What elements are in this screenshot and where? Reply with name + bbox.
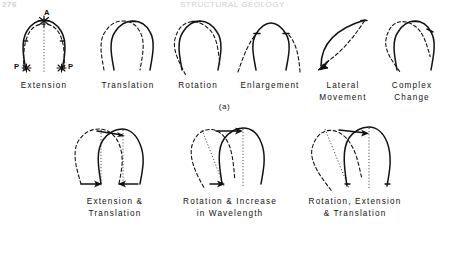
diagram-label-extension: Extension: [2, 80, 86, 91]
diagram-label-rot-wave-line2: in Wavelength: [165, 208, 295, 220]
diagram-label-ext-trans-line1: Extension &: [50, 196, 180, 208]
diagram-enlargement: Enlargement: [226, 8, 314, 91]
figure-panel-a: A P P Extension Translation: [0, 6, 449, 110]
panel-a-caption: (a): [0, 102, 449, 111]
diagram-label-rot-ext-trans-line1: Rotation, Extension: [285, 196, 425, 208]
diagram-label-rot-wave-line1: Rotation & Increase: [165, 196, 295, 208]
limb-label-p-right: P: [68, 62, 73, 71]
diagram-label-rot-ext-trans-line2: & Translation: [285, 208, 425, 220]
limb-label-p-left: P: [14, 62, 19, 71]
figure-page: 276 STRUCTURAL GEOLOGY: [0, 0, 449, 258]
diagram-label-lateral-movement-line1: Lateral: [306, 80, 380, 92]
diagram-extension: A P P Extension: [2, 8, 86, 91]
figure-panel-b: Extension & Translation: [0, 118, 449, 258]
diagram-lateral-movement: Lateral Movement: [306, 8, 380, 103]
diagram-complex-change: Complex Change: [376, 8, 448, 103]
diagram-label-enlargement: Enlargement: [226, 80, 314, 91]
diagram-label-ext-trans-line2: Translation: [50, 208, 180, 220]
apex-label-a: A: [44, 8, 50, 17]
diagram-rotation-and-increase-in-wavelength: Rotation & Increase in Wavelength: [165, 118, 295, 219]
diagram-label-complex-change-line1: Complex: [376, 80, 448, 92]
diagram-extension-and-translation: Extension & Translation: [50, 118, 180, 219]
diagram-rotation-extension-and-translation: Rotation, Extension & Translation: [285, 118, 425, 219]
